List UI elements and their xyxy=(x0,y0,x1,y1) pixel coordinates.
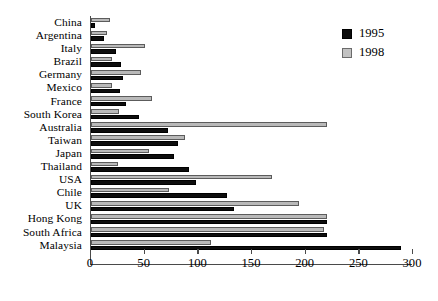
bar-1998 xyxy=(91,83,112,88)
category-label: South Korea xyxy=(0,108,86,121)
category-label: Hong Kong xyxy=(0,212,86,225)
bar-1998 xyxy=(91,214,327,219)
category-label: UK xyxy=(0,199,86,212)
category-label: Chile xyxy=(0,186,86,199)
bar-row xyxy=(90,173,412,186)
category-label: France xyxy=(0,95,86,108)
x-tick-label: 250 xyxy=(349,256,368,271)
bar-1998 xyxy=(91,227,324,232)
bar-1995 xyxy=(91,36,104,41)
bar-1995 xyxy=(91,128,168,133)
bar-1995 xyxy=(91,115,139,120)
legend-swatch-1998 xyxy=(342,48,352,58)
category-label: Australia xyxy=(0,121,86,134)
category-label: Germany xyxy=(0,68,86,81)
legend-label-1995: 1995 xyxy=(359,27,384,40)
bar-row xyxy=(90,186,412,199)
legend-swatch-1995 xyxy=(342,29,352,39)
bar-1995 xyxy=(91,220,327,225)
x-tick-label: 200 xyxy=(295,256,314,271)
legend-item-1998: 1998 xyxy=(342,43,384,62)
bar-row xyxy=(90,108,412,121)
x-tick-label: 50 xyxy=(137,256,150,271)
x-tick-mark xyxy=(197,249,198,254)
x-tick-mark xyxy=(358,249,359,254)
x-tick-label: 100 xyxy=(188,256,207,271)
bar-1998 xyxy=(91,57,112,62)
bar-row xyxy=(90,134,412,147)
bar-1995 xyxy=(91,167,189,172)
category-label: USA xyxy=(0,173,86,186)
bar-1995 xyxy=(91,62,121,67)
bar-1995 xyxy=(91,49,116,54)
x-tick-label: 300 xyxy=(403,256,422,271)
bar-1998 xyxy=(91,96,152,101)
category-label: China xyxy=(0,16,86,29)
bar-1995 xyxy=(91,102,126,107)
category-label: Malaysia xyxy=(0,239,86,252)
category-label: Japan xyxy=(0,147,86,160)
bar-1995 xyxy=(91,180,196,185)
category-label: Italy xyxy=(0,42,86,55)
legend-item-1995: 1995 xyxy=(342,24,384,43)
x-tick-mark xyxy=(305,249,306,254)
bar-1995 xyxy=(91,89,120,94)
bar-1998 xyxy=(91,175,272,180)
bar-row xyxy=(90,147,412,160)
x-tick-label: 0 xyxy=(87,256,93,271)
category-label: Brazil xyxy=(0,55,86,68)
bar-1998 xyxy=(91,188,169,193)
bar-row xyxy=(90,226,412,239)
bar-row xyxy=(90,81,412,94)
bar-1995 xyxy=(91,207,234,212)
category-label: Mexico xyxy=(0,81,86,94)
chart-legend: 1995 1998 xyxy=(342,24,384,62)
bar-chart: ChinaArgentinaItalyBrazilGermanyMexicoFr… xyxy=(0,0,438,301)
category-label: South Africa xyxy=(0,226,86,239)
bar-row xyxy=(90,121,412,134)
x-axis-ticks: 050100150200250300 xyxy=(90,249,412,279)
category-axis-labels: ChinaArgentinaItalyBrazilGermanyMexicoFr… xyxy=(0,16,86,252)
bar-1995 xyxy=(91,154,174,159)
x-tick-mark xyxy=(251,249,252,254)
bar-1995 xyxy=(91,76,123,81)
x-tick-mark xyxy=(90,249,91,254)
category-label: Thailand xyxy=(0,160,86,173)
bar-1998 xyxy=(91,122,327,127)
bar-1995 xyxy=(91,141,178,146)
bar-row xyxy=(90,212,412,225)
bar-row xyxy=(90,160,412,173)
bar-1998 xyxy=(91,149,149,154)
category-label: Argentina xyxy=(0,29,86,42)
bar-row xyxy=(90,68,412,81)
x-tick-mark xyxy=(412,249,413,254)
legend-label-1998: 1998 xyxy=(359,46,384,59)
bar-1998 xyxy=(91,162,118,167)
bar-1998 xyxy=(91,18,110,23)
bar-row xyxy=(90,199,412,212)
bar-1998 xyxy=(91,135,185,140)
category-label: Taiwan xyxy=(0,134,86,147)
bar-1995 xyxy=(91,23,95,28)
bar-1998 xyxy=(91,240,211,245)
bar-1998 xyxy=(91,70,141,75)
bar-1995 xyxy=(91,193,227,198)
bar-1995 xyxy=(91,233,327,238)
x-tick-mark xyxy=(144,249,145,254)
bar-1998 xyxy=(91,44,145,49)
bar-1998 xyxy=(91,109,119,114)
bar-1998 xyxy=(91,201,299,206)
bar-row xyxy=(90,95,412,108)
x-tick-label: 150 xyxy=(242,256,261,271)
bar-1998 xyxy=(91,31,107,36)
